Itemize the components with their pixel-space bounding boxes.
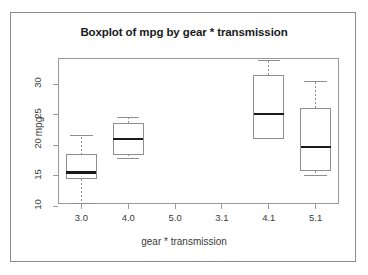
boxplot-box <box>254 60 284 139</box>
boxplot-box <box>113 118 143 159</box>
boxplot-graphic <box>0 0 368 275</box>
y-tick-label: 25 <box>32 100 43 126</box>
x-tick-label: 3.0 <box>64 212 98 223</box>
boxplot-box <box>66 136 96 204</box>
y-tick-label: 10 <box>32 192 43 218</box>
x-tick-label: 4.1 <box>252 212 286 223</box>
figure-canvas: Boxplot of mpg by gear * transmission mp… <box>0 0 368 275</box>
boxplot-series <box>66 60 330 203</box>
x-tick-label: 5.1 <box>299 212 333 223</box>
x-axis-ticks <box>81 204 315 209</box>
x-tick-label: 4.0 <box>111 212 145 223</box>
x-axis-title: gear * transmission <box>0 236 368 247</box>
x-tick-label: 5.0 <box>158 212 192 223</box>
y-axis-ticks <box>53 84 58 206</box>
y-tick-label: 15 <box>32 161 43 187</box>
y-tick-label: 20 <box>32 131 43 157</box>
x-tick-label: 3.1 <box>205 212 239 223</box>
boxplot-box <box>301 82 331 176</box>
y-tick-label: 30 <box>32 70 43 96</box>
